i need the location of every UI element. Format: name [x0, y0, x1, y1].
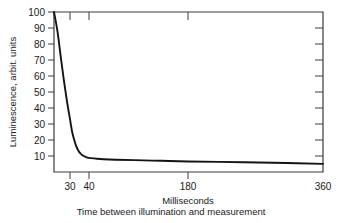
- x-tick-label: 40: [83, 181, 95, 192]
- x-tick-label: 30: [64, 181, 76, 192]
- y-tick-label: 80: [34, 39, 46, 50]
- y-tick-label: 20: [34, 135, 46, 146]
- y-tick-label: 30: [34, 119, 46, 130]
- chart-figure: 100 90 80 70 60 50 40 30 20 10: [0, 0, 342, 223]
- chart-background: [0, 0, 342, 223]
- x-tick-label: 360: [315, 181, 332, 192]
- y-tick-label: 10: [34, 151, 46, 162]
- y-tick-label: 60: [34, 71, 46, 82]
- y-tick-label: 90: [34, 23, 46, 34]
- x-axis-units-label: Milliseconds: [162, 195, 214, 206]
- x-tick-label: 180: [180, 181, 197, 192]
- y-tick-label: 50: [34, 87, 46, 98]
- y-axis-title: Luminescence, arbit. units: [7, 37, 18, 148]
- y-tick-label: 70: [34, 55, 46, 66]
- x-axis-title: Time between illumination and measuremen…: [77, 206, 266, 217]
- y-tick-label: 40: [34, 103, 46, 114]
- y-tick-label: 100: [28, 7, 45, 18]
- luminescence-decay-chart: 100 90 80 70 60 50 40 30 20 10: [0, 0, 342, 223]
